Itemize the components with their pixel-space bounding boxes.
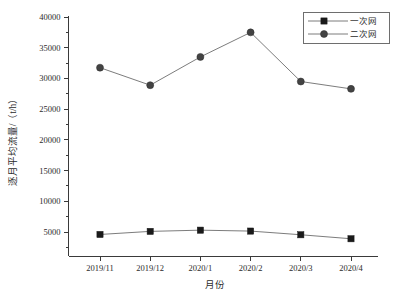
series-line-1 [100, 230, 351, 239]
x-tick-label: 2020/3 [289, 263, 313, 273]
y-tick-label: 20000 [39, 135, 60, 145]
legend-marker-circle [321, 31, 328, 38]
y-tick-label: 25000 [39, 104, 60, 114]
y-axis-title: 逐月平均流量/（t/h） [7, 94, 18, 187]
x-tick-label: 2020/1 [189, 263, 213, 273]
legend-label-2: 二次网 [350, 29, 377, 39]
x-axis-title: 月份 [205, 279, 225, 290]
y-tick-label: 40000 [39, 12, 60, 22]
x-axis-ticks: 2019/112019/122020/12020/22020/32020/4 [86, 257, 363, 273]
legend-marker-square [321, 18, 327, 24]
data-point-marker [297, 78, 304, 85]
series-layer [97, 29, 355, 242]
x-tick-label: 2019/11 [86, 263, 114, 273]
data-point-marker [298, 232, 304, 238]
data-point-marker [147, 82, 154, 89]
y-tick-label: 15000 [39, 166, 60, 176]
data-point-marker [348, 236, 354, 242]
data-point-marker [197, 227, 203, 233]
chart-legend: 一次网二次网 [303, 12, 389, 43]
y-tick-label: 35000 [39, 43, 60, 53]
y-axis-ticks: 500010000150002000025000300003500040000 [39, 12, 68, 247]
line-chart: 逐月平均流量/（t/h） 月份 500010000150002000025000… [0, 0, 393, 299]
chart-container: 逐月平均流量/（t/h） 月份 500010000150002000025000… [0, 0, 393, 299]
x-tick-label: 2020/4 [339, 263, 363, 273]
y-tick-label: 30000 [39, 73, 60, 83]
data-point-marker [247, 29, 254, 36]
data-point-marker [97, 64, 104, 71]
legend-label-1: 一次网 [350, 16, 377, 26]
y-tick-label: 10000 [39, 196, 60, 206]
data-point-marker [248, 228, 254, 234]
data-point-marker [97, 231, 103, 237]
x-tick-label: 2020/2 [239, 263, 263, 273]
data-point-marker [197, 53, 204, 60]
y-tick-label: 5000 [44, 227, 61, 237]
data-point-marker [147, 228, 153, 234]
x-tick-label: 2019/12 [136, 263, 164, 273]
data-point-marker [348, 85, 355, 92]
